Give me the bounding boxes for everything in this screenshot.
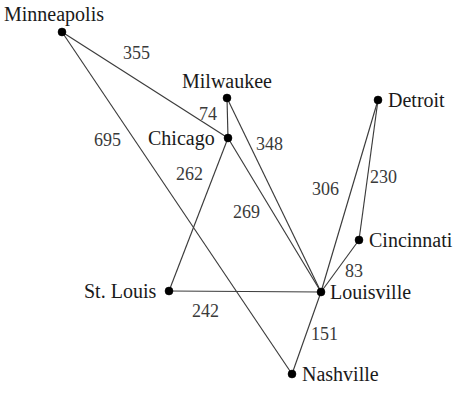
node-label-cincinnati: Cincinnati bbox=[369, 230, 452, 250]
edge-stlouis-louisville bbox=[169, 291, 321, 292]
node-dot-chicago[interactable] bbox=[224, 134, 232, 142]
edge-weight-minneapolis-chicago: 355 bbox=[123, 44, 150, 62]
edge-weight-milwaukee-louisville: 348 bbox=[256, 135, 283, 153]
edge-weight-detroit-louisville: 306 bbox=[312, 180, 339, 198]
node-label-milwaukee: Milwaukee bbox=[182, 71, 272, 91]
edge-weight-chicago-louisville: 269 bbox=[233, 203, 260, 221]
graph-canvas bbox=[0, 0, 469, 398]
node-label-minneapolis: Minneapolis bbox=[4, 4, 104, 24]
edge-weight-milwaukee-chicago: 74 bbox=[199, 105, 217, 123]
edge-weight-stlouis-louisville: 242 bbox=[192, 302, 219, 320]
node-dot-louisville[interactable] bbox=[317, 288, 325, 296]
node-dot-stlouis[interactable] bbox=[165, 287, 173, 295]
edge-chicago-stlouis bbox=[169, 138, 228, 291]
node-dot-minneapolis[interactable] bbox=[58, 28, 66, 36]
node-dot-milwaukee[interactable] bbox=[223, 94, 231, 102]
city-distance-graph: 3556957434826926230623083242151Minneapol… bbox=[0, 0, 469, 398]
edge-milwaukee-chicago bbox=[227, 98, 228, 138]
edge-weight-minneapolis-nashville: 695 bbox=[94, 131, 121, 149]
edge-weight-chicago-stlouis: 262 bbox=[176, 165, 203, 183]
node-dot-cincinnati[interactable] bbox=[355, 236, 363, 244]
node-label-stlouis: St. Louis bbox=[84, 281, 156, 301]
node-label-nashville: Nashville bbox=[302, 364, 379, 384]
node-dot-detroit[interactable] bbox=[374, 96, 382, 104]
edge-weight-louisville-nashville: 151 bbox=[311, 325, 338, 343]
node-dot-nashville[interactable] bbox=[288, 370, 296, 378]
edge-weight-detroit-cincinnati: 230 bbox=[370, 168, 397, 186]
node-label-louisville: Louisville bbox=[330, 282, 411, 302]
edge-weight-cincinnati-louisville: 83 bbox=[345, 262, 363, 280]
node-label-detroit: Detroit bbox=[388, 90, 445, 110]
node-label-chicago: Chicago bbox=[148, 128, 215, 148]
edge-milwaukee-louisville bbox=[227, 98, 321, 292]
